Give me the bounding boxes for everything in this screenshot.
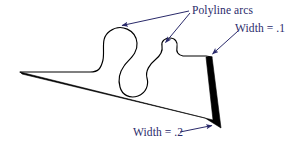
arrow-to-small-arc bbox=[166, 13, 191, 43]
arrow-to-width-2 bbox=[180, 126, 212, 133]
thin-curve bbox=[20, 28, 212, 97]
filled-band bbox=[20, 57, 221, 128]
polyline-arc-path bbox=[20, 28, 212, 97]
leader-lines bbox=[122, 11, 238, 132]
arrow-to-large-arc bbox=[122, 11, 189, 26]
label-polyline-arcs: Polyline arcs bbox=[192, 5, 253, 17]
label-width-2: Width = .2 bbox=[133, 127, 183, 139]
label-width-1: Width = .1 bbox=[235, 23, 285, 35]
diagram-canvas: Polyline arcs Width = .1 Width = .2 bbox=[0, 0, 296, 148]
band-outline bbox=[20, 57, 221, 128]
